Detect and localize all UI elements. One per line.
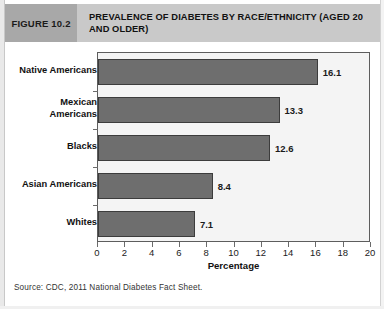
bars-layer: 16.113.312.68.47.1 xyxy=(98,53,369,241)
bar-value-label: 8.4 xyxy=(218,181,231,192)
figure-title-container: PREVALENCE OF DIABETES BY RACE/ETHNICITY… xyxy=(77,4,380,42)
x-axis-tick-label: 18 xyxy=(328,247,358,258)
bar-value-label: 12.6 xyxy=(275,143,294,154)
figure-number-label: FIGURE 10.2 xyxy=(11,18,70,29)
y-axis-tick xyxy=(93,205,98,206)
category-label: Native Americans xyxy=(0,65,97,77)
category-label: Mexican Americans xyxy=(0,97,97,120)
bar-row: 16.1 xyxy=(98,59,341,85)
bar-row: 8.4 xyxy=(98,173,231,199)
bar xyxy=(98,97,280,123)
bar-value-label: 13.3 xyxy=(285,105,304,116)
x-axis-tick-label: 12 xyxy=(246,247,276,258)
y-axis-tick xyxy=(93,91,98,92)
card-left-margin xyxy=(0,0,5,309)
bar-row: 7.1 xyxy=(98,211,213,237)
bar xyxy=(98,135,270,161)
y-axis-tick xyxy=(93,129,98,130)
category-label: Asian Americans xyxy=(0,179,97,191)
figure-header: FIGURE 10.2 PREVALENCE OF DIABETES BY RA… xyxy=(5,4,380,42)
x-axis-tick-label: 2 xyxy=(109,247,139,258)
x-axis-tick-label: 4 xyxy=(137,247,167,258)
x-axis-tick-label: 20 xyxy=(355,247,384,258)
x-axis-tick-label: 10 xyxy=(219,247,249,258)
figure-number-badge: FIGURE 10.2 xyxy=(5,4,77,42)
bar-row: 12.6 xyxy=(98,135,293,161)
bar-value-label: 7.1 xyxy=(200,219,213,230)
x-axis-tick-label: 6 xyxy=(164,247,194,258)
x-axis-tick-label: 0 xyxy=(82,247,112,258)
chart-region: 16.113.312.68.47.1 Percentage Native Ame… xyxy=(6,42,378,270)
bar xyxy=(98,59,318,85)
card-right-margin xyxy=(380,0,384,309)
figure-card: FIGURE 10.2 PREVALENCE OF DIABETES BY RA… xyxy=(0,0,384,309)
category-label: Whites xyxy=(0,217,97,229)
plot-area: 16.113.312.68.47.1 xyxy=(97,52,370,242)
bar-value-label: 16.1 xyxy=(323,67,342,78)
x-axis-title: Percentage xyxy=(97,260,370,271)
x-axis-tick-label: 8 xyxy=(191,247,221,258)
y-axis-tick xyxy=(93,167,98,168)
source-note: Source: CDC, 2011 National Diabetes Fact… xyxy=(14,283,202,292)
category-label: Blacks xyxy=(0,141,97,153)
bar xyxy=(98,173,213,199)
x-axis-tick-label: 16 xyxy=(300,247,330,258)
page-title: PREVALENCE OF DIABETES BY RACE/ETHNICITY… xyxy=(89,11,372,36)
bar xyxy=(98,211,195,237)
x-axis-tick-label: 14 xyxy=(273,247,303,258)
bar-row: 13.3 xyxy=(98,97,303,123)
